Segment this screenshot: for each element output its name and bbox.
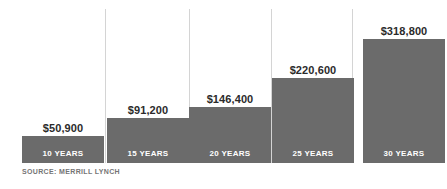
bar-category-label: 15 YEARS: [107, 149, 189, 158]
bar-value-label: $146,400: [189, 93, 271, 105]
bar-category-label: 20 YEARS: [189, 149, 271, 158]
bar-category-label: 10 YEARS: [22, 149, 104, 158]
bar-column-20-years: $146,400 20 YEARS: [189, 0, 271, 163]
bar-rect[interactable]: 25 YEARS: [272, 78, 354, 163]
bar-value-label: $50,900: [22, 122, 104, 134]
plot-area: $50,900 10 YEARS $91,200 15 YEARS $146,4…: [22, 0, 445, 163]
bar-column-30-years: $318,800 30 YEARS: [363, 0, 445, 163]
bar-value-label: $220,600: [272, 64, 354, 76]
source-note: SOURCE: MERRILL LYNCH: [22, 168, 120, 175]
bar-rect[interactable]: 10 YEARS: [22, 136, 104, 163]
bar-column-15-years: $91,200 15 YEARS: [107, 0, 189, 163]
bar-rect[interactable]: 30 YEARS: [363, 39, 445, 163]
bar-rect[interactable]: 20 YEARS: [189, 107, 271, 163]
bar-chart: $50,900 10 YEARS $91,200 15 YEARS $146,4…: [0, 0, 447, 189]
bar-column-10-years: $50,900 10 YEARS: [22, 0, 104, 163]
bar-column-25-years: $220,600 25 YEARS: [272, 0, 354, 163]
bar-value-label: $318,800: [363, 25, 445, 37]
bar-category-label: 25 YEARS: [272, 149, 354, 158]
bar-value-label: $91,200: [107, 104, 189, 116]
bar-category-label: 30 YEARS: [363, 149, 445, 158]
bar-rect[interactable]: 15 YEARS: [107, 118, 189, 163]
